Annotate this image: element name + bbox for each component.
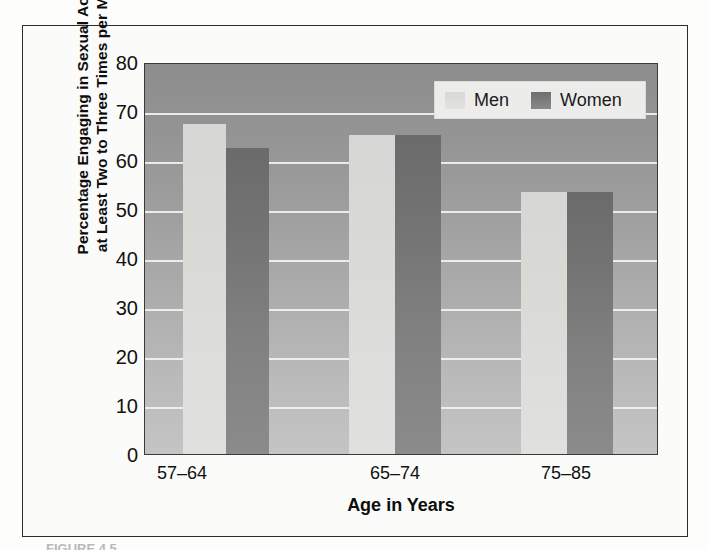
- bar-men-65-74: [349, 135, 395, 454]
- x-tick-57-64: 57–64: [122, 463, 242, 484]
- y-tick-60: 60: [96, 151, 138, 171]
- y-tick-80: 80: [96, 53, 138, 73]
- x-tick-75-85: 75–85: [506, 463, 626, 484]
- y-tick-40: 40: [96, 249, 138, 269]
- legend-swatch-men-icon: [445, 92, 465, 109]
- y-tick-50: 50: [96, 200, 138, 220]
- legend-label-women: Women: [560, 90, 622, 111]
- bar-men-57-64: [183, 124, 226, 454]
- legend-entry-women: Women: [531, 90, 622, 111]
- figure-caption-cut: FIGURE 4.5: [46, 541, 406, 550]
- y-tick-20: 20: [96, 347, 138, 367]
- bar-men-75-85: [521, 192, 567, 454]
- y-tick-10: 10: [96, 396, 138, 416]
- plot-inner: Men Women: [145, 64, 657, 454]
- legend-swatch-women-icon: [531, 92, 551, 109]
- y-axis-title-line-1: Percentage Engaging in Sexual Activity: [73, 0, 92, 277]
- bar-women-57-64: [226, 148, 269, 454]
- x-tick-65-74: 65–74: [335, 463, 455, 484]
- x-axis-title: Age in Years: [144, 495, 658, 516]
- y-tick-0: 0: [96, 445, 138, 465]
- y-tick-70: 70: [96, 102, 138, 122]
- legend: Men Women: [434, 81, 646, 119]
- y-tick-30: 30: [96, 298, 138, 318]
- bar-women-75-85: [567, 192, 613, 454]
- legend-entry-men: Men: [445, 90, 509, 111]
- plot-area: Men Women: [144, 63, 658, 455]
- legend-label-men: Men: [474, 90, 509, 111]
- figure-root: Percentage Engaging in Sexual Activity a…: [0, 0, 709, 550]
- bar-women-65-74: [395, 135, 441, 454]
- y-axis-ticks: 80 70 60 50 40 30 20 10 0: [92, 63, 138, 455]
